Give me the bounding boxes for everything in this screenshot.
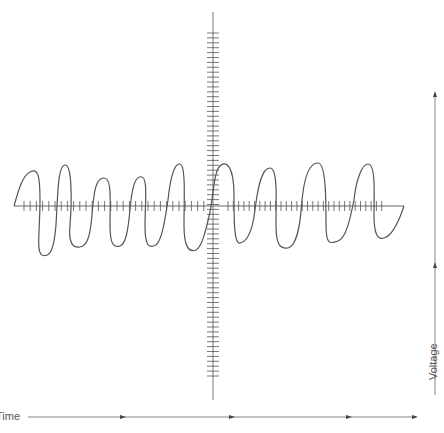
diagram-canvas: Time Voltage <box>0 0 444 433</box>
voltage-axis-label: Voltage <box>427 343 439 380</box>
time-axis-label: Time <box>0 410 20 422</box>
time-arrow <box>28 415 418 419</box>
